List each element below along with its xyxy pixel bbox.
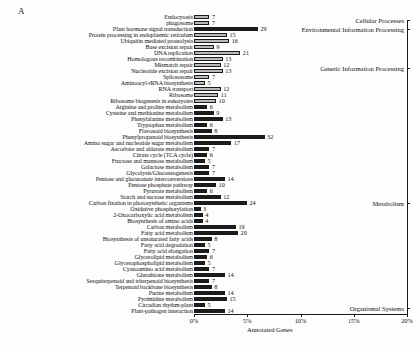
group-tick: [407, 29, 410, 30]
group-label: Environmental Information Processing: [301, 26, 404, 33]
bar: [194, 249, 209, 253]
bar: [194, 51, 240, 55]
bar: [194, 279, 209, 283]
x-axis-title: Annotated Genes: [247, 326, 293, 333]
bar: [194, 33, 227, 37]
bar: [194, 267, 209, 271]
axis-tick-label: 20%: [401, 317, 413, 324]
bar: [194, 21, 209, 25]
right-axis-line: [407, 20, 408, 314]
bar: [194, 93, 218, 97]
bar: [194, 255, 207, 259]
bar: [194, 81, 205, 85]
bar: [194, 135, 265, 139]
bar: [194, 117, 223, 121]
bar: [194, 153, 207, 157]
bar: [194, 219, 203, 223]
bar: [194, 87, 221, 91]
group-tick: [407, 203, 410, 204]
bar: [194, 15, 209, 19]
bar: [194, 207, 201, 211]
group-label: Cellular Processes: [355, 17, 404, 24]
kegg-pathway-bar-chart: A Endocytosis7phagosome7Plant hormone si…: [0, 0, 420, 347]
bar: [194, 159, 205, 163]
group-tick: [407, 20, 410, 21]
axis-tick-label: 5%: [243, 317, 252, 324]
bar: [194, 45, 214, 49]
bar: [194, 213, 203, 217]
bar: [194, 57, 223, 61]
group-label: Metabolism: [372, 200, 404, 207]
bar: [194, 69, 223, 73]
bar: [194, 225, 236, 229]
bar: [194, 309, 225, 313]
axis-tick-label: 10%: [295, 317, 307, 324]
bar: [194, 285, 212, 289]
bar: [194, 189, 207, 193]
bar: [194, 105, 207, 109]
category-label: Plant-pathogen interaction: [131, 308, 193, 314]
bar: [194, 39, 229, 43]
bar: [194, 147, 209, 151]
group-tick: [407, 68, 410, 69]
bar: [194, 129, 212, 133]
bar: [194, 171, 209, 175]
axis-tick-label: 0%: [190, 317, 199, 324]
plot-area: Endocytosis7phagosome7Plant hormone sign…: [0, 14, 420, 314]
bar: [194, 201, 247, 205]
bar: [194, 243, 205, 247]
group-label: Genetic Information Processing: [320, 65, 404, 72]
group-tick: [407, 308, 410, 309]
bar: [194, 291, 225, 295]
bar: [194, 195, 221, 199]
bar: [194, 111, 214, 115]
bar: [194, 261, 205, 265]
axis-tick-label: 15%: [348, 317, 360, 324]
group-label: Organismal Systems: [350, 305, 404, 312]
bar: [194, 123, 207, 127]
bar: [194, 63, 221, 67]
bar: [194, 27, 258, 31]
bar: [194, 303, 205, 307]
bar: [194, 165, 209, 169]
bar: [194, 273, 225, 277]
